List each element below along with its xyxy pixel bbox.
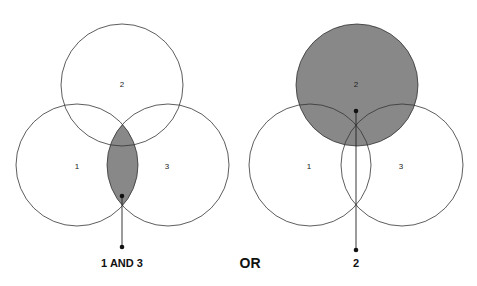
right-label-2: 2 <box>354 80 359 89</box>
right-caption: 2 <box>353 257 359 269</box>
right-label-1: 1 <box>307 162 312 171</box>
left-label-1: 1 <box>75 162 80 171</box>
right-label-3: 3 <box>399 162 404 171</box>
left-venn: 2 1 3 1 AND 3 <box>16 24 229 269</box>
left-caption: 1 AND 3 <box>101 257 143 269</box>
right-pointer-dot-bottom <box>354 248 359 253</box>
or-label: OR <box>240 255 261 271</box>
left-label-2: 2 <box>120 80 125 89</box>
left-pointer-dot-bottom <box>120 245 125 250</box>
right-venn: 2 1 3 2 <box>249 24 463 269</box>
venn-comparison-diagram: 2 1 3 1 AND 3 OR 2 1 3 2 <box>0 0 477 286</box>
right-pointer-dot-top <box>354 109 359 114</box>
left-label-3: 3 <box>165 162 170 171</box>
left-pointer-dot-top <box>120 194 125 199</box>
